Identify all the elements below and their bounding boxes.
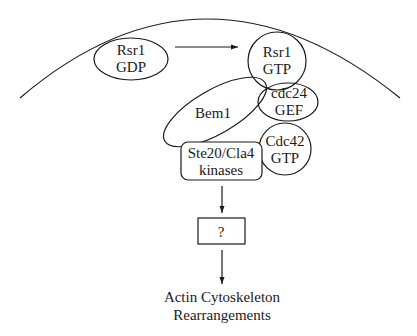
node-rsr1-gdp: Rsr1 GDP [94,38,168,80]
rsr1-gdp-label-1: Rsr1 [117,42,145,58]
node-ste20-cla4-kinases: Ste20/Cla4 kinases [181,142,262,180]
node-output: Actin Cytoskeleton Rearrangements [164,289,281,323]
rsr1-gtp-label-1: Rsr1 [263,44,291,60]
ste20-cla4-label-2: kinases [199,162,243,178]
cdc42-gtp-circle [259,123,311,175]
pathway-diagram: Rsr1 GDP Rsr1 GTP Bem1 cdc24 GEF Cdc42 G… [0,0,417,336]
rsr1-gdp-label-2: GDP [116,59,146,75]
cdc42-gtp-label-2: GTP [271,150,299,166]
node-cdc24-gef: cdc24 GEF [258,83,318,121]
unknown-label: ? [218,224,225,240]
node-unknown: ? [198,218,245,244]
cdc24-gef-label-1: cdc24 [271,85,307,101]
bem1-label: Bem1 [195,105,231,121]
node-rsr1-gtp: Rsr1 GTP [248,32,306,90]
node-cdc42-gtp: Cdc42 GTP [259,123,311,175]
cdc42-gtp-label-1: Cdc42 [265,133,304,149]
output-label-1: Actin Cytoskeleton [164,289,281,305]
ste20-cla4-label-1: Ste20/Cla4 [188,145,255,161]
cell-membrane-arc [20,19,400,98]
output-label-2: Rearrangements [173,307,271,323]
cdc24-gef-label-2: GEF [275,102,303,118]
rsr1-gtp-label-2: GTP [263,61,291,77]
